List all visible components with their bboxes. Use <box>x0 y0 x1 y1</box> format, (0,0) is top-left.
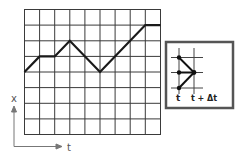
main-grid <box>25 10 161 135</box>
random-walk-diagram: x t t t + Δt <box>0 0 241 157</box>
y-axis-label: x <box>11 93 17 104</box>
inset-box: t t + Δt <box>166 42 233 108</box>
x-axis-label: t <box>67 142 71 153</box>
trajectory-path <box>25 25 161 72</box>
inset-label-t: t <box>176 93 181 103</box>
inset-label-t-plus-dt: t + Δt <box>191 94 217 103</box>
